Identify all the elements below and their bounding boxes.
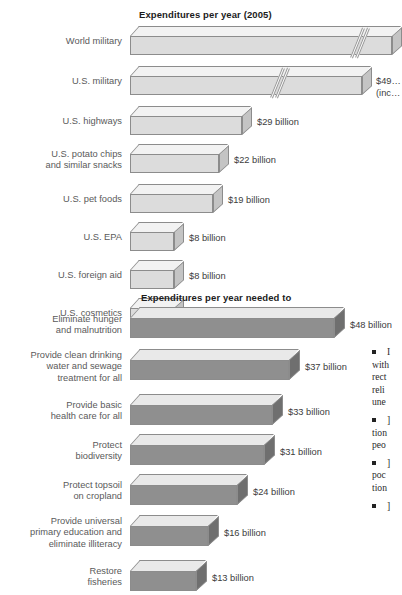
- bar-us-foreign-aid: [130, 260, 184, 290]
- row-label: Protect topsoil on cropland: [0, 480, 122, 503]
- row-label: U.S. military: [0, 76, 122, 87]
- bar-universal-education: [130, 515, 219, 547]
- bar-value-label: $49…: [376, 76, 401, 86]
- chart-row: Provide universal primary education and …: [0, 511, 397, 557]
- chart-row: Restore fisheries $13 billion: [0, 557, 397, 595]
- bar-basic-health-care: [130, 394, 283, 426]
- body-text-column: I with rect reli une ] tion peo ] poc ti…: [372, 346, 397, 517]
- row-label: U.S. pet foods: [0, 194, 122, 205]
- bar-value-label: $8 billion: [189, 271, 226, 281]
- bar-us-military: [130, 66, 372, 96]
- bar-value-label: $22 billion: [234, 155, 276, 165]
- body-paragraph: I with rect reli une: [372, 346, 397, 409]
- bar-value-label: $8 billion: [189, 233, 226, 243]
- chart-row: World military: [0, 22, 397, 60]
- chart-row: U.S. military $49… (inc…: [0, 62, 397, 100]
- bar-us-pet-foods: [130, 184, 223, 214]
- chart-row: Provide clean drinking water and sewage …: [0, 345, 397, 391]
- chart-title-upper: Expenditures per year (2005): [139, 9, 272, 20]
- chart-row: Protect biodiversity $31 billion: [0, 431, 397, 471]
- bar-restore-fisheries: [130, 560, 207, 592]
- row-label: Provide clean drinking water and sewage …: [0, 350, 122, 384]
- row-label: U.S. foreign aid: [0, 270, 122, 281]
- bar-us-epa: [130, 222, 184, 252]
- chart-row: Provide basic health care for all $33 bi…: [0, 391, 397, 431]
- body-paragraph: ]: [372, 500, 397, 513]
- chart-row: U.S. potato chips and similar snacks $22…: [0, 140, 397, 180]
- row-label: Provide universal primary education and …: [0, 516, 122, 550]
- bar-value-label: $13 billion: [212, 573, 254, 583]
- bar-us-potato-chips: [130, 144, 229, 174]
- row-label: Protect biodiversity: [0, 440, 122, 463]
- bar-world-military: [130, 26, 402, 56]
- bar-value-label-note: (inc…: [376, 88, 400, 98]
- bar-value-label: $24 billion: [253, 487, 295, 497]
- row-label: U.S. potato chips and similar snacks: [0, 149, 122, 172]
- body-paragraph: ] tion peo: [372, 414, 397, 452]
- row-label: Eliminate hunger and malnutrition: [0, 314, 122, 337]
- bar-clean-water: [130, 349, 300, 381]
- row-label: Provide basic health care for all: [0, 400, 122, 423]
- chart-row: U.S. foreign aid $8 billion: [0, 256, 397, 294]
- bar-value-label: $33 billion: [288, 407, 330, 417]
- chart-row: U.S. EPA $8 billion: [0, 218, 397, 256]
- bar-eliminate-hunger: [130, 307, 345, 339]
- bullet-icon: [372, 461, 376, 465]
- bar-protect-topsoil: [130, 474, 248, 506]
- row-label: U.S. highways: [0, 116, 122, 127]
- row-label: Restore fisheries: [0, 566, 122, 589]
- bullet-icon: [372, 418, 376, 422]
- bar-value-label: $16 billion: [224, 528, 266, 538]
- bar-value-label: $19 billion: [228, 195, 270, 205]
- bar-us-highways: [130, 106, 252, 136]
- bullet-icon: [372, 350, 376, 354]
- bar-protect-biodiversity: [130, 434, 275, 466]
- bar-value-label: $48 billion: [350, 320, 392, 330]
- body-paragraph: ] poc tion: [372, 457, 397, 495]
- bar-value-label: $37 billion: [305, 362, 347, 372]
- bullet-icon: [372, 504, 376, 508]
- row-label: World military: [0, 36, 122, 47]
- chart-row: Protect topsoil on cropland $24 billion: [0, 471, 397, 511]
- chart-row: U.S. highways $29 billion: [0, 102, 397, 140]
- row-label: U.S. EPA: [0, 232, 122, 243]
- bar-value-label: $29 billion: [257, 117, 299, 127]
- chart-row: U.S. pet foods $19 billion: [0, 180, 397, 218]
- bar-value-label: $31 billion: [280, 447, 322, 457]
- chart-row: Eliminate hunger and malnutrition $48 bi…: [0, 305, 397, 345]
- chart-title-lower: Expenditures per year needed to: [141, 292, 291, 303]
